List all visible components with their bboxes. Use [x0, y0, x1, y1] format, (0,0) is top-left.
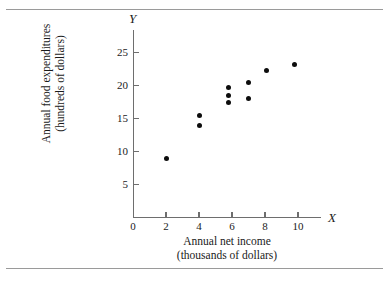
y-tick-5 [133, 184, 139, 185]
y-axis-title: Annual food expenditures (hundreds of do… [40, 4, 67, 164]
data-point [264, 68, 269, 73]
x-tick-label-4: 4 [188, 221, 210, 232]
y-tick-25 [133, 52, 139, 53]
data-point [226, 100, 231, 105]
scatter-plot-figure: Y X 0 510152025 246810 Annual food expen… [0, 10, 389, 266]
data-point [246, 96, 251, 101]
page-rule-bottom [6, 268, 383, 269]
y-tick-label-25: 25 [106, 47, 128, 58]
data-point [164, 156, 169, 161]
y-axis-symbol: Y [129, 12, 136, 25]
data-point [226, 85, 231, 90]
y-tick-label-20: 20 [106, 80, 128, 91]
y-tick-label-15: 15 [106, 113, 128, 124]
x-tick-label-10: 10 [287, 221, 309, 232]
y-tick-label-10: 10 [106, 146, 128, 157]
x-axis-line [133, 217, 321, 218]
y-tick-label-5: 5 [106, 179, 128, 190]
x-axis-title-line1: Annual net income [133, 234, 321, 248]
x-tick-4 [198, 212, 199, 218]
y-axis-title-line1: Annual food expenditures [40, 4, 54, 164]
x-tick-6 [231, 212, 232, 218]
x-tick-10 [297, 212, 298, 218]
data-point [197, 123, 202, 128]
x-tick-2 [165, 212, 166, 218]
data-point [292, 62, 297, 67]
x-axis-symbol: X [328, 211, 336, 224]
x-tick-label-6: 6 [221, 221, 243, 232]
x-axis-title: Annual net income (thousands of dollars) [133, 234, 321, 262]
data-point [226, 93, 231, 98]
x-tick-label-8: 8 [254, 221, 276, 232]
y-tick-20 [133, 85, 139, 86]
data-point [246, 80, 251, 85]
x-axis-title-line2: (thousands of dollars) [133, 248, 321, 262]
data-point [197, 113, 202, 118]
origin-label: 0 [122, 221, 144, 232]
y-tick-10 [133, 151, 139, 152]
x-tick-label-2: 2 [155, 221, 177, 232]
y-axis-line [133, 30, 134, 218]
x-tick-8 [264, 212, 265, 218]
y-axis-title-line2: (hundreds of dollars) [53, 4, 67, 164]
y-tick-15 [133, 118, 139, 119]
